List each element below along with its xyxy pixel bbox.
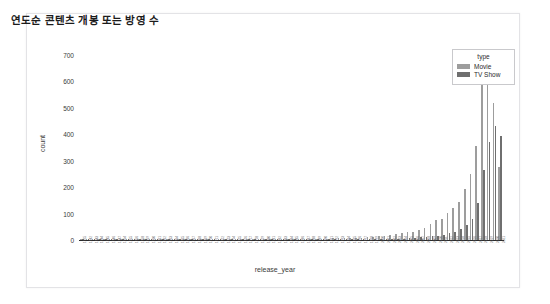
x-tick-label: 2000: [381, 236, 385, 243]
legend-label: TV Show: [474, 71, 500, 78]
y-axis-label: count: [39, 135, 46, 152]
y-tick-label: 400: [63, 131, 74, 138]
y-tick-label: 700: [63, 52, 74, 59]
x-tick-label: 1980: [267, 236, 271, 243]
x-tick-label: 1960: [152, 236, 156, 243]
x-tick-label: 1973: [227, 236, 231, 243]
bar-tv-show: [477, 203, 479, 240]
x-tick-label: 1992: [335, 236, 339, 243]
bar-tv-show: [500, 136, 502, 240]
plot-area: [79, 55, 503, 240]
x-tick-label: 2001: [387, 236, 391, 243]
x-tick-label: 1976: [244, 236, 248, 243]
x-tick-label: 1982: [278, 236, 282, 243]
x-tick-label: 1986: [301, 236, 305, 243]
x-tick-label: 2002: [393, 236, 397, 243]
x-tick-label: 1961: [158, 236, 162, 243]
x-tick-label: 1991: [330, 236, 334, 243]
x-tick-label: 1955: [129, 236, 133, 243]
x-tick-label: 1987: [307, 236, 311, 243]
x-tick-label: 2018: [484, 236, 488, 243]
x-tick-label: 1979: [261, 236, 265, 243]
x-tick-label: 1975: [238, 236, 242, 243]
x-tick-label: 1988: [312, 236, 316, 243]
x-tick-label: 1962: [163, 236, 167, 243]
x-tick-label: 1998: [370, 236, 374, 243]
x-tick-label: 1983: [284, 236, 288, 243]
x-tick-label: 1970: [209, 236, 213, 243]
x-tick-label: 2010: [439, 236, 443, 243]
x-tick-label: 1971: [215, 236, 219, 243]
x-tick-label: 1958: [141, 236, 145, 243]
legend-swatch-icon: [457, 72, 470, 77]
x-tick-label: 1996: [358, 236, 362, 243]
x-tick-label: 1946: [112, 236, 116, 243]
x-tick-label: 1964: [175, 236, 179, 243]
x-tick-label: 1989: [318, 236, 322, 243]
bar-tv-show: [489, 142, 491, 240]
legend-entry: Movie: [457, 63, 510, 70]
screenshot-root: 연도순 콘텐츠 개봉 또는 방영 수 010020030040050060070…: [0, 0, 550, 304]
x-tick-label: 1947: [118, 236, 122, 243]
legend-swatch-icon: [457, 64, 470, 69]
x-axis-label: release_year: [0, 266, 550, 273]
x-tick-label: 1944: [100, 236, 104, 243]
x-tick-label: 1963: [169, 236, 173, 243]
x-tick-label: 1943: [95, 236, 99, 243]
x-tick-label: 2003: [398, 236, 402, 243]
x-tick-label: 1981: [272, 236, 276, 243]
page-title: 연도순 콘텐츠 개봉 또는 방영 수: [11, 12, 159, 27]
x-tick-label: 1942: [89, 236, 93, 243]
x-tick-label: 1972: [221, 236, 225, 243]
x-tick-label: 1978: [255, 236, 259, 243]
x-tick-label: 2021: [502, 236, 506, 243]
x-tick-label: 2020: [496, 236, 500, 243]
x-tick-label: 1969: [204, 236, 208, 243]
bar-tv-show: [483, 170, 485, 240]
x-tick-label: 1994: [347, 236, 351, 243]
x-tick-label: 2006: [416, 236, 420, 243]
x-tick-label: 1968: [198, 236, 202, 243]
x-tick-label: 1956: [135, 236, 139, 243]
y-tick-label: 0: [70, 237, 74, 244]
x-tick-label: 1959: [146, 236, 150, 243]
x-axis-ticks: 1925194219431944194519461947195419551956…: [79, 243, 503, 265]
x-tick-label: 2005: [410, 236, 414, 243]
x-tick-label: 1993: [341, 236, 345, 243]
x-tick-label: 1965: [181, 236, 185, 243]
x-tick-label: 1990: [324, 236, 328, 243]
x-tick-label: 1974: [232, 236, 236, 243]
bar-tv-show: [495, 126, 497, 240]
x-tick-label: 1995: [353, 236, 357, 243]
x-tick-label: 2017: [479, 236, 483, 243]
x-tick-label: 2009: [433, 236, 437, 243]
legend-label: Movie: [474, 63, 491, 70]
x-tick-label: 2008: [427, 236, 431, 243]
x-tick-label: 2015: [467, 236, 471, 243]
y-tick-label: 300: [63, 157, 74, 164]
x-tick-label: 1984: [290, 236, 294, 243]
x-tick-label: 1997: [364, 236, 368, 243]
x-tick-label: 1945: [106, 236, 110, 243]
x-tick-label: 1977: [249, 236, 253, 243]
x-tick-label: 2007: [421, 236, 425, 243]
x-tick-label: 2011: [444, 236, 448, 243]
legend-entry: TV Show: [457, 71, 510, 78]
y-tick-label: 200: [63, 184, 74, 191]
x-tick-label: 1925: [83, 236, 87, 243]
x-tick-label: 1966: [186, 236, 190, 243]
y-tick-label: 600: [63, 78, 74, 85]
legend-entries: MovieTV Show: [457, 63, 510, 79]
x-tick-label: 2004: [404, 236, 408, 243]
x-tick-label: 2019: [490, 236, 494, 243]
x-tick-label: 1985: [295, 236, 299, 243]
y-axis-ticks: 0100200300400500600700: [48, 0, 74, 304]
y-tick-label: 500: [63, 104, 74, 111]
x-tick-label: 1967: [192, 236, 196, 243]
x-tick-label: 2016: [473, 236, 477, 243]
y-tick-label: 100: [63, 210, 74, 217]
x-tick-label: 1954: [123, 236, 127, 243]
x-tick-label: 2013: [456, 236, 460, 243]
x-tick-label: 2014: [461, 236, 465, 243]
legend-title: type: [457, 53, 510, 60]
